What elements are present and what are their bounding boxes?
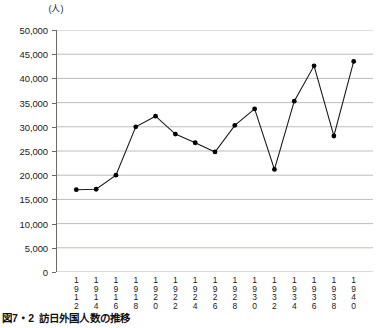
y-axis-tick-label: 25,000	[20, 146, 48, 157]
y-axis-tick	[52, 127, 56, 128]
x-axis-tick-label: 1924	[188, 276, 202, 310]
data-point	[312, 63, 317, 68]
x-axis-tick-label: 1940	[347, 276, 361, 310]
data-point	[94, 187, 99, 192]
y-axis-tick-label: 50,000	[20, 25, 48, 36]
data-point	[272, 167, 277, 172]
x-axis-tick-label: 1934	[287, 276, 301, 310]
figure-caption: 図7・2訪日外国人数の推移	[2, 310, 130, 325]
x-axis-tick-label: 1916	[109, 276, 123, 310]
x-axis-tick-label: 1930	[248, 276, 262, 310]
y-axis-tick-label: 45,000	[20, 49, 48, 60]
data-point	[133, 124, 138, 129]
y-axis-tick	[52, 103, 56, 104]
y-axis-tick-label: 40,000	[20, 73, 48, 84]
line-chart-svg	[56, 30, 373, 272]
x-axis-tick-label: 1918	[129, 276, 143, 310]
data-point	[252, 106, 257, 111]
y-axis-tick	[52, 199, 56, 200]
y-axis-tick-label: 15,000	[20, 194, 48, 205]
y-axis-tick-label: 35,000	[20, 97, 48, 108]
x-axis-tick-label-digit: 0	[248, 302, 262, 311]
y-axis-tick	[52, 54, 56, 55]
data-point	[331, 134, 336, 139]
y-axis-tick	[52, 224, 56, 225]
x-axis-tick-label: 1926	[208, 276, 222, 310]
x-axis-tick-label-digit: 6	[307, 302, 321, 311]
x-axis-tick-label: 1914	[89, 276, 103, 310]
y-axis-tick-label: 20,000	[20, 170, 48, 181]
figure-container: (人) 05,00010,00015,00020,00025,00030,000…	[0, 0, 383, 328]
y-axis-tick	[52, 175, 56, 176]
data-point	[351, 59, 356, 64]
x-axis-tick-label: 1912	[69, 276, 83, 310]
x-axis-tick-label: 1936	[307, 276, 321, 310]
caption-title: 訪日外国人数の推移	[39, 312, 130, 324]
data-point	[74, 187, 79, 192]
y-axis-tick	[52, 272, 56, 273]
x-axis-tick-label: 1928	[228, 276, 242, 310]
y-axis-tick-label: 30,000	[20, 121, 48, 132]
x-axis-tick-label: 1922	[168, 276, 182, 310]
x-axis-tick-label-digit: 0	[347, 302, 361, 311]
y-axis-tick	[52, 151, 56, 152]
x-axis-tick-label-digit: 8	[228, 302, 242, 311]
x-axis-tick-label: 1920	[149, 276, 163, 310]
data-point	[193, 140, 198, 145]
y-axis-tick	[52, 248, 56, 249]
caption-number: 図7・2	[2, 312, 34, 324]
x-axis-tick-label-digit: 2	[267, 302, 281, 311]
data-line	[76, 61, 353, 189]
y-axis-tick	[52, 30, 56, 31]
x-axis-tick-label-digit: 0	[149, 302, 163, 311]
data-point	[114, 173, 119, 178]
x-axis-tick-label-digit: 2	[168, 302, 182, 311]
y-axis-tick-label: 5,000	[25, 242, 48, 253]
data-point	[173, 132, 178, 137]
x-axis-tick-label-digit: 4	[188, 302, 202, 311]
plot-area	[56, 30, 373, 272]
x-axis-tick-label-digit: 4	[287, 302, 301, 311]
y-axis-tick-label: 0	[43, 267, 48, 278]
x-axis-tick-label-digit: 8	[327, 302, 341, 311]
data-point-markers	[74, 59, 356, 192]
data-point	[153, 114, 158, 119]
data-point	[292, 99, 297, 104]
x-axis-tick-label-digit: 6	[208, 302, 222, 311]
data-point	[213, 150, 218, 155]
y-axis-tick	[52, 78, 56, 79]
data-point	[232, 123, 237, 128]
x-axis-tick-label: 1932	[267, 276, 281, 310]
y-axis-labels: 05,00010,00015,00020,00025,00030,00035,0…	[0, 0, 54, 290]
y-axis-tick-label: 10,000	[20, 218, 48, 229]
x-axis-tick-label-digit: 8	[129, 302, 143, 311]
x-axis-tick-label: 1938	[327, 276, 341, 310]
